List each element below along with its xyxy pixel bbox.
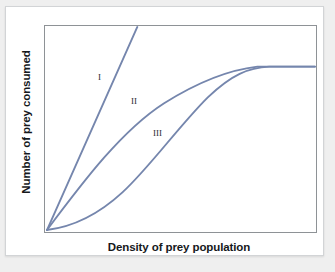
figure-root: Number of prey consumed I II III Density…: [0, 0, 335, 272]
y-axis-title: Number of prey consumed: [20, 17, 32, 227]
curve-series-I: [47, 27, 137, 230]
curve-label-II: II: [131, 97, 137, 106]
curve-series-II: [47, 67, 315, 230]
curves-svg: [45, 26, 316, 232]
plot-area: I II III: [44, 25, 317, 233]
curve-label-I: I: [98, 73, 101, 82]
figure-card-inner: Number of prey consumed I II III Density…: [9, 10, 320, 252]
figure-card: Number of prey consumed I II III Density…: [5, 6, 324, 256]
x-axis-title: Density of prey population: [37, 241, 321, 253]
curve-series-III: [47, 67, 315, 230]
curve-label-III: III: [153, 129, 162, 138]
